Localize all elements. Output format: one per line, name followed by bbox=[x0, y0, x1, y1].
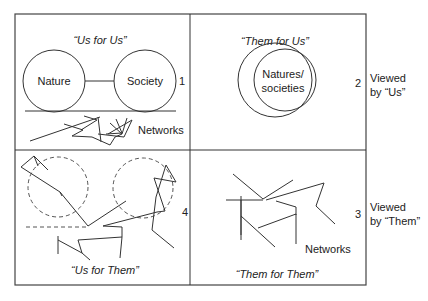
nature-label: Nature bbox=[37, 75, 70, 87]
quadrant-title: “Us for Them” bbox=[71, 264, 140, 276]
viewed-by-them-line2: by “Them” bbox=[370, 215, 420, 227]
natures-societies-label-line2: societies bbox=[262, 82, 305, 94]
natures-societies-label-line1: Natures/ bbox=[262, 68, 305, 80]
society-label: Society bbox=[127, 75, 164, 87]
quadrant-them-for-us: “Them for Us” Natures/ societies 2 bbox=[238, 35, 361, 117]
quadrant-us-for-us: “Us for Us” Nature Society 1 Networks bbox=[23, 34, 185, 145]
network-tangle bbox=[21, 156, 176, 260]
network-tangle bbox=[30, 116, 132, 145]
quadrant-title: “Them for Them” bbox=[236, 268, 320, 280]
quadrant-number: 3 bbox=[355, 208, 361, 220]
outer-circle bbox=[238, 43, 312, 117]
quadrant-number: 1 bbox=[179, 75, 185, 87]
dashed-circle-left bbox=[28, 157, 88, 217]
viewed-by-us-line2: by “Us” bbox=[370, 86, 406, 98]
networks-label: Networks bbox=[138, 124, 184, 136]
quadrant-them-for-them: Networks 3 “Them for Them” bbox=[226, 174, 361, 280]
networks-label: Networks bbox=[305, 243, 351, 255]
network-tangle bbox=[226, 174, 335, 247]
viewed-by-them-line1: Viewed bbox=[370, 201, 406, 213]
inner-circle bbox=[254, 49, 316, 111]
side-labels: Viewed by “Us” Viewed by “Them” bbox=[370, 72, 420, 227]
quadrant-title: “Us for Us” bbox=[73, 34, 128, 46]
quadrant-number: 4 bbox=[182, 206, 188, 218]
us-them-diagram: “Us for Us” Nature Society 1 Networks “T… bbox=[0, 0, 428, 301]
quadrant-us-for-them: 4 “Us for Them” bbox=[21, 156, 188, 276]
quadrant-number: 2 bbox=[355, 77, 361, 89]
viewed-by-us-line1: Viewed bbox=[370, 72, 406, 84]
quadrant-title: “Them for Us” bbox=[241, 35, 310, 47]
